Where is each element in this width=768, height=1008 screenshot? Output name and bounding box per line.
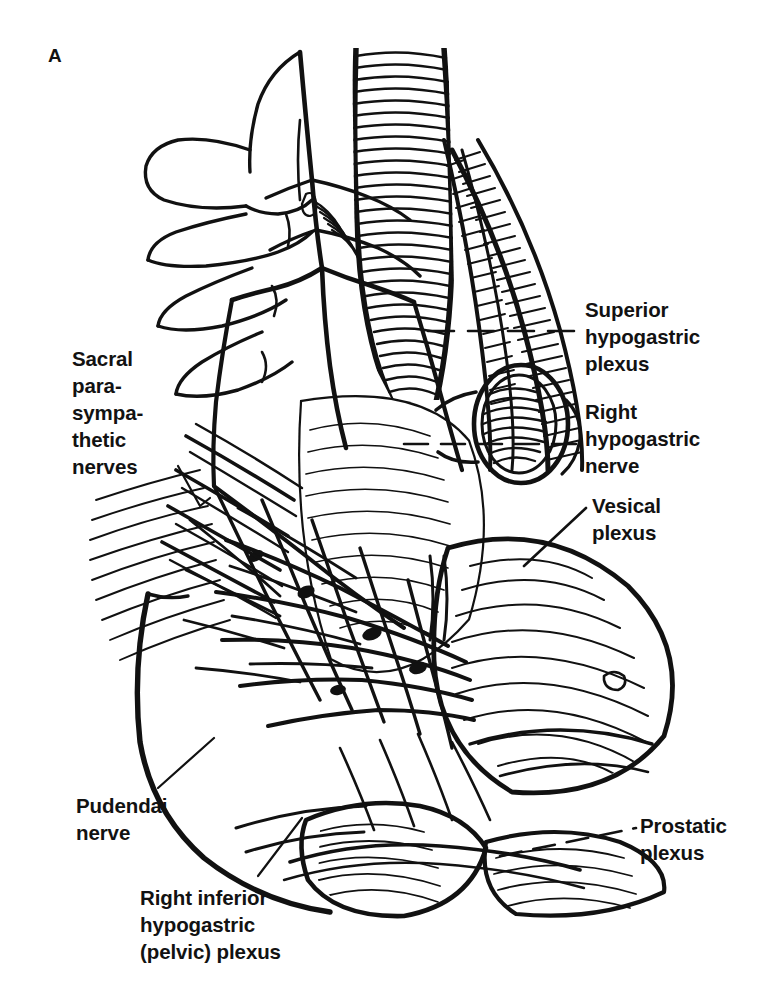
leader-vesical-plexus — [524, 508, 586, 566]
leader-right-inferior-hypogastric-plexus — [258, 818, 302, 876]
anatomical-figure-panel-a: A — [0, 0, 768, 1008]
label-right-hypogastric-nerve: Right hypogastric nerve — [585, 398, 700, 479]
label-vesical-plexus: Vesical plexus — [592, 492, 661, 546]
label-right-inferior-hypogastric-plexus: Right inferior hypogastric (pelvic) plex… — [140, 884, 281, 965]
leader-pudendal-nerve — [158, 738, 214, 788]
label-pudendal-nerve: Pudendai nerve — [76, 792, 167, 846]
leader-sacral-parasympathetic-nerves — [178, 466, 210, 506]
label-sacral-parasympathetic-nerves: Sacral para- sympa- thetic nerves — [72, 345, 143, 480]
leader-prostatic-plexus — [500, 828, 636, 856]
panel-label: A — [48, 46, 62, 65]
label-superior-hypogastric-plexus: Superior hypogastric plexus — [585, 296, 700, 377]
label-prostatic-plexus: Prostatic plexus — [640, 812, 727, 866]
